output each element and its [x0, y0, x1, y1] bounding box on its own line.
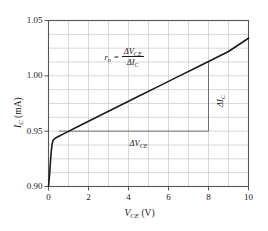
x-axis-title-unit-text: (V) [141, 208, 154, 218]
ytick-label: 1.00 [17, 71, 43, 80]
formula-lhs: ro [105, 53, 111, 62]
ytick-label: 1.05 [17, 16, 43, 25]
figure-container: 0.90 0.95 1.00 1.05 0 2 4 6 8 10 IC (mA)… [0, 0, 268, 231]
xtick-label: 6 [159, 193, 179, 202]
xtick-label: 10 [239, 193, 259, 202]
delta-vce-subscript: CE [140, 143, 148, 149]
delta-ic-symbol: ΔI [215, 99, 225, 107]
formula-denominator-symbol: ΔI [127, 57, 135, 67]
xtick-label: 0 [39, 193, 59, 202]
xtick-label: 2 [79, 193, 99, 202]
y-axis-title-subscript: C [17, 120, 24, 125]
formula-lhs-subscript: o [108, 57, 111, 63]
formula-numerator-symbol: ΔV [124, 46, 134, 56]
formula-equals: = [114, 53, 119, 62]
ytick-label: 0.90 [17, 182, 43, 191]
xtick-label: 8 [199, 193, 219, 202]
y-axis-title-unit-text: (mA) [13, 97, 23, 118]
formula-fraction: ΔVCE ΔIC [122, 47, 144, 67]
x-axis-title-subscript: CE [130, 212, 139, 219]
formula-numerator-subscript: CE [134, 51, 142, 57]
ytick-label: 0.95 [17, 127, 43, 136]
formula-numerator: ΔVCE [122, 47, 144, 57]
formula-denominator: ΔIC [125, 57, 141, 67]
xtick-label: 4 [119, 193, 139, 202]
output-resistance-formula: ro = ΔVCE ΔIC [105, 47, 144, 67]
delta-vce-symbol: ΔV [130, 138, 140, 148]
delta-ic-annotation: ΔIC [216, 95, 225, 107]
delta-vce-annotation: ΔVCE [130, 139, 148, 148]
x-axis-title: VCE (V) [125, 209, 155, 219]
y-axis-title: IC (mA) [14, 97, 24, 128]
formula-denominator-subscript: C [135, 62, 139, 68]
delta-ic-subscript: C [220, 95, 226, 99]
